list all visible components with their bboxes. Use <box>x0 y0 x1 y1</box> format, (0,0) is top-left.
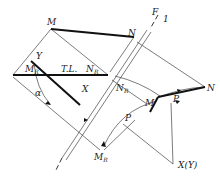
label-N-right: N <box>206 83 216 93</box>
label-F: F <box>151 7 159 17</box>
label-P-left: P <box>124 113 132 123</box>
label-Y: Y <box>36 51 43 61</box>
arrow-heads <box>45 89 181 147</box>
label-TL: T.L. <box>61 64 78 74</box>
label-XY: X(Y) <box>177 160 198 170</box>
geometry-diagram: M N F 1 Y MR T.L. NR X NR α N M P P MR X… <box>0 0 220 179</box>
label-MR-bottom: MR <box>93 152 108 163</box>
label-X: X <box>81 84 89 94</box>
label-P-right: P <box>172 94 180 104</box>
label-M-top: M <box>46 17 57 27</box>
diagram-canvas: M N F 1 Y MR T.L. NR X NR α N M P P MR X… <box>0 0 220 179</box>
label-NR-right: NR <box>115 83 129 94</box>
label-alpha: α <box>35 88 41 98</box>
label-N-top: N <box>127 28 137 38</box>
label-M-right: M <box>144 98 155 108</box>
label-one: 1 <box>163 14 169 24</box>
